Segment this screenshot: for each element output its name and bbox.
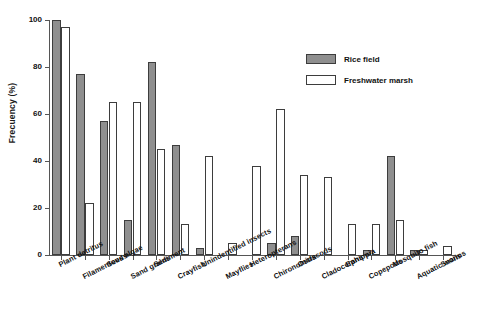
y-tick-label: 40 — [16, 157, 42, 165]
legend-label: Rice field — [344, 55, 380, 64]
bar — [396, 220, 404, 255]
legend-swatch-rice — [306, 54, 336, 64]
bar — [133, 102, 141, 255]
bar — [100, 121, 108, 255]
legend-swatch-marsh — [306, 75, 336, 85]
y-tick-label: 0 — [16, 251, 42, 259]
y-tick-mark — [45, 208, 49, 209]
bar — [52, 20, 60, 255]
legend-label: Freshwater marsh — [344, 76, 413, 85]
y-tick-mark — [45, 67, 49, 68]
bar — [196, 248, 204, 255]
x-tick-mark — [133, 256, 134, 260]
y-tick-label: 60 — [16, 110, 42, 118]
bar — [205, 156, 213, 255]
y-tick-mark — [45, 20, 49, 21]
bar — [76, 74, 84, 255]
y-axis-line — [49, 20, 50, 255]
bar — [109, 102, 117, 255]
y-tick-label: 20 — [16, 204, 42, 212]
bar — [348, 224, 356, 255]
y-tick-label: 100 — [16, 16, 42, 24]
bar — [172, 145, 180, 255]
bar — [276, 109, 284, 255]
bar — [300, 175, 308, 255]
bar — [148, 62, 156, 255]
bar — [61, 27, 69, 255]
y-tick-mark — [45, 255, 49, 256]
bar — [387, 156, 395, 255]
y-tick-label: 80 — [16, 63, 42, 71]
bar — [157, 149, 165, 255]
y-tick-mark — [45, 161, 49, 162]
bar-chart: Frecuency (%) 020406080100 Plant detritu… — [0, 0, 478, 316]
y-tick-mark — [45, 114, 49, 115]
